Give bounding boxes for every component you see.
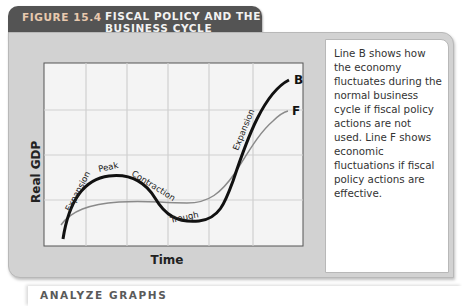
figure-panel: B F Expansion Peak Contraction Trough Ex… xyxy=(8,32,454,278)
analyze-graphs-heading: ANALYZE GRAPHS xyxy=(40,289,167,301)
figure-title-line1: FISCAL POLICY AND THE xyxy=(105,11,265,23)
analyze-graphs-section: ANALYZE GRAPHS xyxy=(28,286,462,306)
figure-number: FIGURE 15.4 xyxy=(22,11,102,23)
y-axis-label: Real GDP xyxy=(29,143,43,203)
chart: B F Expansion Peak Contraction Trough Ex… xyxy=(9,33,325,279)
line-chart: B F Expansion Peak Contraction Trough Ex… xyxy=(9,33,325,279)
figure-title: FISCAL POLICY AND THE BUSINESS CYCLE xyxy=(105,11,265,34)
x-axis-label: Time xyxy=(9,253,325,267)
figure-caption: Line B shows how the economy fluctuates … xyxy=(325,39,449,273)
line-label-F: F xyxy=(292,104,300,118)
line-label-B: B xyxy=(294,73,303,87)
